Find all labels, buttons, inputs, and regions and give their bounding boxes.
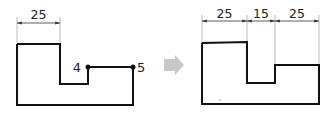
point-label-4: 4 [73, 60, 81, 75]
diagram-canvas: 25 4 5 25 15 25 [0, 0, 331, 113]
dimension-label-3: 25 [289, 6, 305, 21]
dimension-label-2: 15 [253, 6, 269, 21]
point-4-marker [86, 65, 91, 70]
point-5-marker [131, 65, 136, 70]
stray-dot [219, 99, 221, 101]
point-label-5: 5 [137, 60, 145, 75]
dimension-label: 25 [31, 7, 47, 22]
shape-outline [202, 42, 319, 104]
left-figure: 25 4 5 [17, 7, 145, 105]
dimension-label-1: 25 [217, 6, 233, 21]
right-figure: 25 15 25 [202, 6, 319, 104]
transform-arrow-icon [164, 55, 184, 75]
